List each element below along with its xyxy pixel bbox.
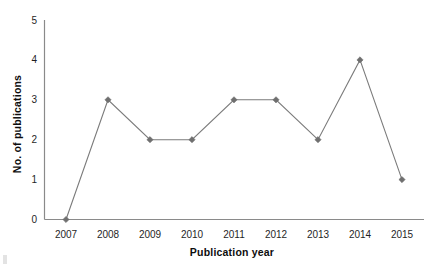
x-tick-label-2015: 2015 (391, 229, 414, 240)
publication-year-line-chart: No. of publications 5 4 3 2 1 0 2007 200… (0, 0, 434, 270)
chart-canvas: No. of publications 5 4 3 2 1 0 2007 200… (0, 0, 434, 270)
series-line-publications (66, 60, 402, 220)
y-tick-label-1: 1 (31, 174, 37, 185)
data-point-2007 (63, 216, 69, 222)
x-axis-title: Publication year (190, 246, 274, 258)
data-point-2014 (357, 57, 363, 63)
x-tick-label-2012: 2012 (265, 229, 288, 240)
y-tick-label-4: 4 (31, 54, 37, 65)
x-tick-label-2008: 2008 (97, 229, 120, 240)
y-tick-label-2: 2 (31, 134, 37, 145)
series-markers (63, 57, 405, 223)
x-tick-label-2011: 2011 (223, 229, 245, 240)
x-tick-label-2010: 2010 (181, 229, 204, 240)
x-tick-label-2007: 2007 (55, 229, 78, 240)
data-point-2015 (399, 177, 405, 183)
y-tick-label-5: 5 (31, 15, 37, 26)
x-tick-label-2013: 2013 (307, 229, 330, 240)
y-tick-label-0: 0 (31, 214, 37, 225)
x-tick-label-2014: 2014 (349, 229, 372, 240)
scan-artifact (3, 255, 7, 264)
x-tick-label-2009: 2009 (139, 229, 162, 240)
y-axis-title: No. of publications (11, 75, 23, 173)
y-tick-label-3: 3 (31, 94, 37, 105)
